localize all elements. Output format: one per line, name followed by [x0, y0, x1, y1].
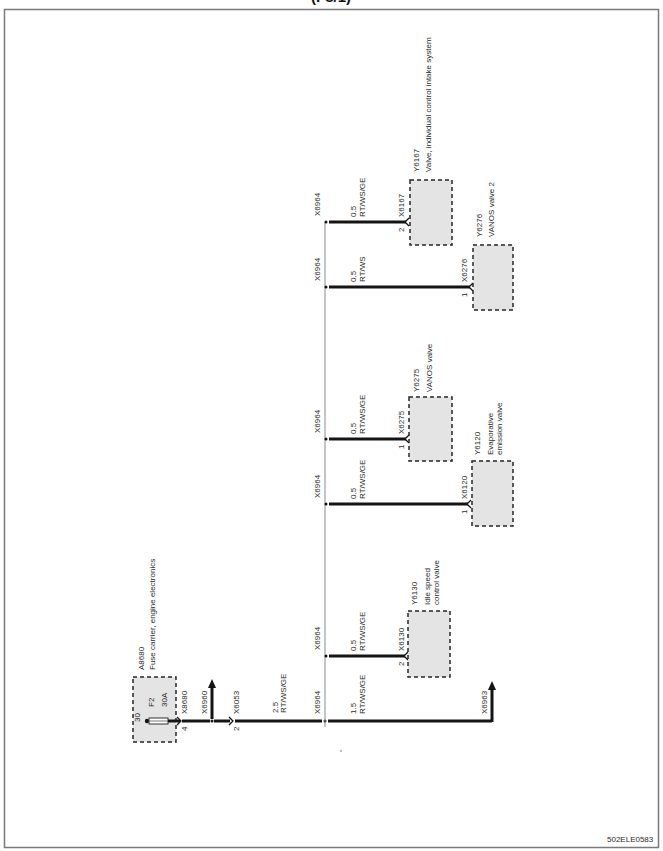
connector-x8680-pin: 4	[180, 726, 189, 731]
connector-x6960-label: X6960	[200, 690, 209, 714]
wire-color-label: RT/WS	[358, 256, 367, 282]
component-name: VANOS valve 2	[487, 181, 496, 237]
component-id: Y6120	[473, 431, 482, 455]
component-box-y6120[interactable]	[472, 461, 513, 526]
junction-dot	[325, 221, 328, 224]
junction-dot	[325, 438, 328, 441]
connector-pin: 1	[460, 292, 469, 297]
wire-color-label: RT/WS/GE	[279, 674, 288, 713]
stray-mark	[340, 750, 342, 752]
wire-color-label: RT/WS/GE	[358, 460, 367, 499]
connector-label: X6275	[397, 410, 406, 434]
wire-size-label: 1.5	[349, 702, 358, 714]
component-name-line-2: emission valve	[495, 402, 504, 455]
wire-size-label: 0.5	[349, 270, 358, 282]
connector-pin: 2	[397, 661, 406, 666]
branch-y6275[interactable]: X6964 0.5 RT/WS/GE X6275 1 Y6275 VANOS v…	[313, 343, 452, 461]
terminal-label: 30	[133, 713, 142, 722]
branch-y6130[interactable]: X6964 0.5 RT/WS/GE X6130 2 Y6130 Idle sp…	[313, 560, 450, 677]
component-id: Y6275	[412, 368, 421, 392]
connector-x8680-label: X8680	[180, 690, 189, 714]
wire-color-label: RT/WS/GE	[358, 395, 367, 434]
wire-size-label: 0.5	[349, 639, 358, 651]
main-wire[interactable]: X8680 4 X6960 X6053 2 2.5 RT/WS/GE X6964…	[168, 674, 496, 731]
fuse-carrier-name: Fuse carrier, engine electronics	[148, 559, 157, 670]
branch-y6167[interactable]: X6964 0.5 RT/WS/GE X6167 2 Y6167 Valve, …	[313, 37, 452, 245]
wire-size-label: 0.5	[349, 422, 358, 434]
wiring-diagram: (F8/1) A8680 Fuse carrier, engine electr…	[0, 0, 663, 851]
connector-label: X6167	[397, 193, 406, 217]
connector-label: X6276	[460, 258, 469, 282]
connector-pin: 1	[460, 509, 469, 514]
fuse-label: F2	[147, 697, 156, 707]
component-name: Valve, individual control intake system	[424, 37, 433, 172]
wire-color-label: RT/WS/GE	[358, 178, 367, 217]
component-id: Y6276	[475, 213, 484, 237]
component-id: Y6167	[412, 148, 421, 172]
splice-label: X6964	[313, 690, 322, 714]
connector-label: X6130	[397, 627, 406, 651]
splice-label: X6964	[313, 474, 322, 498]
component-name-line-1: Evaporative	[486, 412, 495, 455]
splice-label: X6964	[313, 192, 322, 216]
connector-x6053-label: X6053	[232, 690, 241, 714]
fuse-carrier-box[interactable]	[133, 677, 176, 742]
diagram-code: 502ELE0583	[607, 835, 654, 844]
wire-size-label: 0.5	[349, 205, 358, 217]
component-name: VANOS valve	[425, 343, 434, 392]
wire-size-label: 0.5	[349, 487, 358, 499]
fuse-rating: 30A	[160, 692, 169, 707]
end-connector-label: X6963	[480, 690, 489, 714]
wire-color-label: RT/WS/GE	[358, 675, 367, 714]
wire-color-label: RT/WS/GE	[358, 612, 367, 651]
component-name-line-1: Idle speed	[423, 568, 432, 605]
component-box-y6275[interactable]	[409, 397, 452, 461]
diagram-title: (F8/1)	[311, 0, 351, 5]
connector-pin: 2	[397, 227, 406, 232]
component-box-y6167[interactable]	[410, 180, 452, 245]
component-box-y6130[interactable]	[408, 611, 450, 677]
arrow-up-icon	[488, 681, 496, 690]
splice-label: X6964	[313, 409, 322, 433]
connector-pin: 1	[397, 444, 406, 449]
connector-x6053-pin: 2	[232, 726, 241, 731]
junction-dot	[325, 655, 328, 658]
component-id: Y6130	[410, 581, 419, 605]
splice-label: X6964	[313, 257, 322, 281]
connector-label: X6120	[460, 475, 469, 499]
component-name-line-2: control valve	[432, 560, 441, 605]
component-box-y6276[interactable]	[473, 245, 513, 310]
fuse-carrier[interactable]: A8680 Fuse carrier, engine electronics 3…	[133, 559, 176, 742]
junction-x6960-dot	[211, 720, 214, 723]
junction-dot	[325, 286, 328, 289]
fuse-carrier-id: A8680	[137, 646, 146, 670]
arrow-up-icon	[208, 679, 216, 688]
junction-dot	[325, 503, 328, 506]
splice-label: X6964	[313, 626, 322, 650]
connector-socket-icon	[467, 500, 471, 508]
connector-socket-icon	[405, 218, 409, 226]
